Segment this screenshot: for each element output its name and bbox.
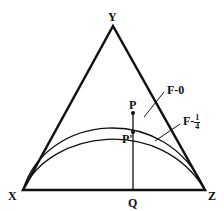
vertex-y-label: Y — [108, 11, 117, 23]
fraction: 14 — [194, 114, 200, 131]
point-p-label: P — [129, 99, 136, 111]
curve-f-quarter-label: F-14 — [183, 114, 200, 131]
diagram-canvas — [0, 0, 224, 211]
vertex-z-label: Z — [208, 190, 216, 202]
curve-f0-value: 0 — [178, 83, 184, 97]
curve-f-quarter — [23, 139, 205, 190]
vertex-x-label: X — [8, 190, 17, 202]
triangle — [23, 26, 205, 190]
fraction-den: 4 — [195, 123, 199, 131]
curve-f0-label: F-0 — [167, 84, 184, 96]
point-p-prime-label: P' — [122, 133, 133, 145]
point-q-label: Q — [128, 197, 137, 209]
